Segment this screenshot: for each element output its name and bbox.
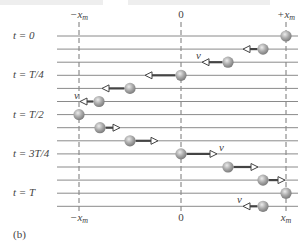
arrowhead-icon [145, 72, 152, 79]
velocity-label: v⃗ [196, 50, 209, 61]
top-axis-label-zero: 0 [178, 9, 184, 20]
time-label: t = T/2 [13, 109, 44, 120]
arrowhead-icon [151, 137, 158, 144]
ball-icon [124, 83, 135, 94]
arrowhead-icon [210, 150, 217, 157]
ball-icon [73, 109, 84, 120]
velocity-label: v⃗ [219, 142, 232, 153]
ball-icon [222, 161, 233, 172]
arrowhead-icon [102, 85, 109, 92]
time-label: t = T [13, 187, 35, 198]
arrowhead-icon [113, 124, 120, 131]
bottom-axis-label-neg: −xm [70, 212, 88, 226]
top-axis-label-neg: −xm [70, 9, 88, 23]
oscillating-balls [73, 30, 291, 212]
diagram-canvas [0, 0, 305, 243]
velocity-label: v⃗ [237, 194, 250, 205]
velocity-label: v⃗ [74, 90, 87, 101]
figure-label: (b) [13, 229, 26, 240]
ball-icon [93, 96, 104, 107]
ball-icon [222, 57, 233, 68]
time-label: t = 3T/4 [13, 148, 49, 159]
time-label: t = T/4 [13, 69, 44, 80]
time-label: t = 0 [13, 30, 34, 41]
bottom-axis-label-pos: xm [281, 212, 292, 226]
ball-icon [257, 175, 268, 186]
oscillation-diagram: v⃗v⃗v⃗v⃗t = 0t = T/4t = T/2t = 3T/4t = T… [0, 0, 305, 243]
arrowhead-icon [278, 177, 285, 184]
ball-icon [257, 44, 268, 55]
ball-icon [280, 30, 291, 41]
ball-icon [175, 148, 186, 159]
ball-icon [124, 135, 135, 146]
top-axis-label-pos: +xm [277, 9, 295, 23]
ball-icon [257, 201, 268, 212]
arrowhead-icon [251, 164, 258, 171]
ball-icon [280, 188, 291, 199]
arrowhead-icon [243, 46, 250, 53]
ball-icon [94, 122, 105, 133]
reference-dashed-lines [79, 22, 286, 211]
ball-icon [175, 70, 186, 81]
bottom-axis-label-zero: 0 [178, 212, 184, 223]
